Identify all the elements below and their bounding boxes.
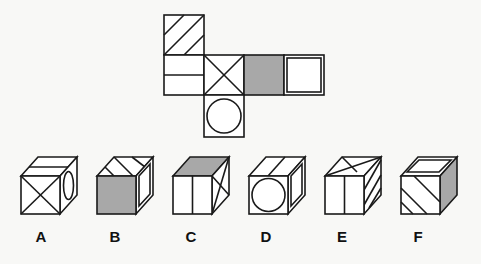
option-label-c[interactable]: C	[176, 228, 206, 245]
option-label-e[interactable]: E	[327, 228, 357, 245]
cube-option-f[interactable]	[401, 157, 457, 214]
cube-option-c[interactable]	[173, 157, 229, 214]
option-label-b[interactable]: B	[100, 228, 130, 245]
puzzle-figure	[0, 0, 481, 264]
option-label-f[interactable]: F	[403, 228, 433, 245]
net-face-horizontal-line	[164, 55, 204, 95]
cube-option-b[interactable]	[97, 157, 153, 214]
cube-net	[164, 15, 324, 137]
net-face-x	[204, 55, 244, 95]
net-face-stripes	[164, 15, 204, 55]
cube-option-d[interactable]	[249, 157, 305, 214]
net-face-square-in-square	[284, 55, 324, 95]
option-label-d[interactable]: D	[251, 228, 281, 245]
net-face-gray	[244, 55, 284, 95]
cube-option-a[interactable]	[21, 157, 77, 214]
cube-option-e[interactable]	[325, 157, 381, 214]
option-label-a[interactable]: A	[26, 228, 56, 245]
net-face-circle	[204, 95, 244, 137]
